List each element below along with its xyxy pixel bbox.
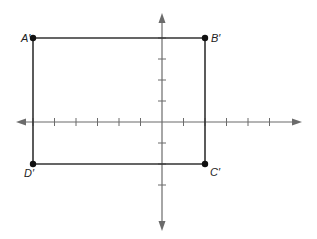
x-axis-right-arrow-icon [292, 119, 302, 126]
vertex-b-label: B′ [211, 32, 221, 44]
vertex-c-point [202, 161, 208, 167]
diagram-canvas: A′ B′ C′ D′ [0, 0, 317, 239]
coordinate-plane-diagram: A′ B′ C′ D′ [0, 0, 317, 239]
x-axis-left-arrow-icon [16, 119, 26, 126]
vertex-c-label: C′ [210, 166, 221, 178]
vertex-b-point [202, 35, 208, 41]
vertex-c-prime: C′ [202, 161, 221, 178]
vertex-d-label: D′ [24, 167, 35, 179]
vertex-a-point [30, 35, 36, 41]
y-axis-up-arrow-icon [159, 13, 166, 23]
x-axis [16, 118, 302, 126]
vertex-d-prime: D′ [24, 161, 36, 179]
y-axis-down-arrow-icon [159, 221, 166, 231]
rectangle-abcd-prime [33, 38, 205, 164]
vertex-a-label: A′ [20, 32, 31, 44]
